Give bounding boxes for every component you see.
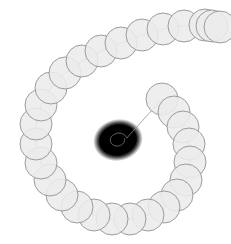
figure-canvas (0, 0, 231, 244)
bead-circle (204, 11, 231, 43)
spiral-figure-svg (0, 0, 231, 244)
